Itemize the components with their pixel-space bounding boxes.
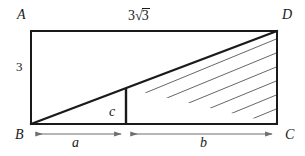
top-side-coefficient: 3 bbox=[128, 8, 135, 23]
height-label: 3 bbox=[16, 60, 23, 73]
geometry-figure: A D B C 3 a b c 3√3 bbox=[0, 0, 305, 156]
vertex-label-d: D bbox=[282, 8, 292, 22]
segment-c-label: c bbox=[109, 105, 115, 119]
vertex-label-a: A bbox=[17, 8, 26, 22]
top-side-label: 3√3 bbox=[128, 8, 150, 24]
vertex-label-b: B bbox=[15, 128, 24, 142]
segment-a-label: a bbox=[72, 136, 79, 150]
segment-b-label: b bbox=[200, 136, 207, 150]
radicand-value: 3 bbox=[142, 8, 150, 24]
vertex-label-c: C bbox=[285, 128, 294, 142]
hatch-fill bbox=[60, 0, 305, 156]
geometry-canvas bbox=[0, 0, 305, 156]
radical-group: √3 bbox=[135, 8, 150, 24]
